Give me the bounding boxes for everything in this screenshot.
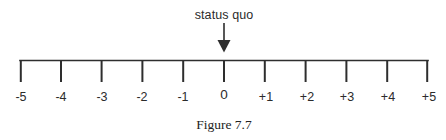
tick-marks-group: [21, 60, 427, 82]
tick-label-minus-4: -4: [55, 90, 66, 104]
tick-label-plus-1: +1: [259, 90, 273, 104]
status-quo-label: status quo: [195, 8, 254, 22]
number-line-svg: status quo -5 -4 -3 -2 -1: [0, 0, 446, 140]
tick-label-minus-3: -3: [96, 90, 107, 104]
tick-labels-group: -5 -4 -3 -2 -1 0 +1 +2 +3 +4 +5: [15, 87, 436, 104]
figure-number-line: status quo -5 -4 -3 -2 -1: [0, 0, 446, 140]
tick-label-plus-4: +4: [381, 90, 395, 104]
figure-caption: Figure 7.7: [196, 117, 252, 132]
tick-label-minus-1: -1: [177, 90, 188, 104]
tick-label-plus-2: +2: [300, 90, 314, 104]
tick-label-minus-5: -5: [15, 90, 26, 104]
tick-label-plus-3: +3: [340, 90, 354, 104]
arrow-head: [218, 40, 231, 53]
tick-label-plus-5: +5: [422, 90, 436, 104]
tick-label-minus-2: -2: [136, 90, 147, 104]
down-arrow-icon: [218, 23, 231, 53]
tick-label-zero: 0: [220, 87, 228, 102]
